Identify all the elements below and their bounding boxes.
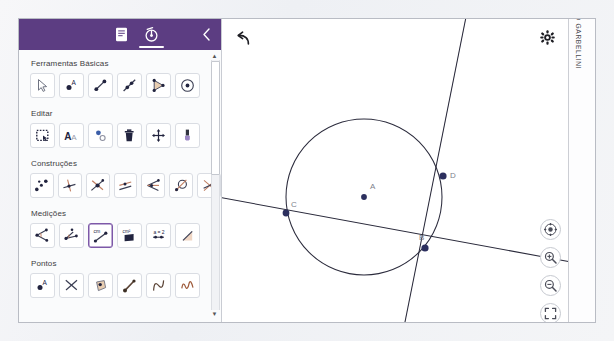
point-tool[interactable]: A [59, 73, 84, 98]
scrollbar-thumb[interactable] [211, 61, 220, 175]
section-title: Ferramentas Básicas [19, 50, 221, 73]
section-title: Editar [19, 100, 221, 123]
midpoint-tool[interactable] [30, 173, 54, 198]
section-pontos: Pontos A [19, 250, 221, 300]
text-tool[interactable]: A A [59, 123, 84, 148]
point-on-object-tool[interactable] [88, 273, 113, 298]
angle-fixed-tool[interactable] [59, 223, 84, 248]
document-icon[interactable] [115, 27, 128, 42]
extremum-tool[interactable] [146, 273, 171, 298]
app-header [19, 19, 221, 50]
svg-text:A: A [71, 133, 77, 142]
segment-tool[interactable] [88, 73, 113, 98]
section-title: Pontos [19, 250, 221, 273]
section-editar: Editar A A [19, 100, 221, 150]
angle-measure-tool[interactable] [30, 223, 55, 248]
move-graphics-tool[interactable] [146, 123, 171, 148]
tool-row [19, 173, 221, 198]
tool-row: A [19, 273, 221, 298]
section-ferramentas-basicas: Ferramentas Básicas A [19, 50, 221, 100]
canvas-controls [540, 219, 561, 322]
svg-text:a = 2: a = 2 [153, 229, 164, 235]
intersect-tool[interactable] [86, 173, 110, 198]
zoom-in-button[interactable] [540, 247, 561, 268]
svg-text:A: A [43, 279, 48, 286]
ratio-tool[interactable]: a = 2 [146, 223, 171, 248]
section-title: Medições [19, 200, 221, 223]
tangent-tool[interactable] [169, 173, 193, 198]
gear-icon[interactable] [540, 30, 555, 45]
point-C [283, 210, 290, 217]
page-background: Ferramentas Básicas A [0, 0, 614, 341]
intersect-point-tool[interactable] [59, 273, 84, 298]
scroll-up-arrow[interactable]: ▲ [210, 52, 219, 60]
tools-sidebar: Ferramentas Básicas A [19, 19, 222, 322]
point-D [439, 172, 446, 179]
hamburger-menu-icon[interactable] [29, 29, 46, 41]
geometry-tools-icon[interactable] [143, 26, 160, 43]
svg-text:cm: cm [93, 228, 100, 234]
area-tool[interactable]: cm² [117, 223, 142, 248]
point-A [361, 194, 367, 200]
point-tool-2[interactable]: A [30, 273, 55, 298]
scroll-down-arrow[interactable]: ▼ [210, 310, 219, 318]
geogebra-app-window: Ferramentas Básicas A [18, 18, 596, 323]
attach-detach-point-tool[interactable] [117, 273, 142, 298]
show-hide-object-tool[interactable] [88, 123, 113, 148]
zoom-out-button[interactable] [540, 275, 561, 296]
circle-tool[interactable] [175, 73, 200, 98]
fullscreen-button[interactable] [540, 303, 561, 322]
slope-tool[interactable] [175, 223, 200, 248]
secant-line-CB [222, 196, 582, 264]
parallel-line-tool[interactable] [114, 173, 138, 198]
roots-tool[interactable] [175, 273, 200, 298]
chevron-left-icon[interactable] [202, 28, 211, 41]
svg-text:cm²: cm² [123, 229, 131, 234]
active-tab-indicator [139, 46, 164, 48]
perpendicular-line-tool[interactable] [58, 173, 82, 198]
distance-length-tool[interactable]: cm [88, 223, 113, 248]
select-region-tool[interactable] [30, 123, 55, 148]
delete-tool[interactable] [117, 123, 142, 148]
steep-line-DB [404, 19, 468, 322]
angle-bisector-tool[interactable] [141, 173, 165, 198]
tool-row: cm cm² [19, 223, 221, 248]
credit-strip: TARCISIO GARBELLINI [568, 19, 595, 322]
sidebar-scrollbar[interactable]: ▲ ▼ [210, 52, 219, 318]
section-construcoes: Construções [19, 150, 221, 200]
style-tool[interactable] [175, 123, 200, 148]
undo-arrow-icon[interactable] [234, 31, 251, 46]
tools-scroll-area[interactable]: Ferramentas Básicas A [19, 50, 221, 322]
center-view-button[interactable] [540, 219, 561, 240]
point-B [421, 244, 428, 251]
section-medicoes: Medições [19, 200, 221, 250]
graphics-canvas[interactable]: A B C D [222, 19, 595, 322]
tool-row: A A [19, 123, 221, 148]
section-title: Construções [19, 150, 221, 173]
move-tool[interactable] [30, 73, 55, 98]
credit-text: TARCISIO GARBELLINI [575, 19, 582, 69]
line-tool[interactable] [117, 73, 142, 98]
tool-row: A [19, 73, 221, 98]
svg-text:A: A [72, 79, 77, 86]
polygon-tool[interactable] [146, 73, 171, 98]
